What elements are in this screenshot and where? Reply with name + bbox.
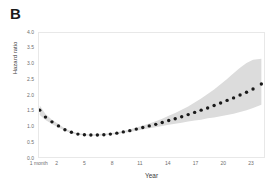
data-point xyxy=(186,113,189,116)
y-axis-tick-label: 2.0 xyxy=(0,93,34,98)
data-point xyxy=(109,132,112,135)
data-point xyxy=(232,96,235,99)
y-axis-tick-label: 3.5 xyxy=(0,45,34,50)
data-point xyxy=(50,120,53,123)
data-point xyxy=(167,119,170,122)
data-point xyxy=(245,91,248,94)
y-axis-tick-label: 0.5 xyxy=(0,140,34,145)
figure-panel-b: B Hazard ratio 4.03.53.02.52.01.51.00.50… xyxy=(0,0,280,187)
data-point xyxy=(76,132,79,135)
y-axis-tick-label: 4.0 xyxy=(0,30,34,35)
data-point xyxy=(57,124,60,127)
plot-svg xyxy=(39,33,266,159)
data-point xyxy=(219,101,222,104)
data-point xyxy=(102,133,105,136)
data-point xyxy=(63,128,66,131)
data-point xyxy=(44,115,47,118)
data-point xyxy=(225,99,228,102)
data-point xyxy=(199,108,202,111)
data-point xyxy=(154,123,157,126)
data-point xyxy=(193,111,196,114)
data-point xyxy=(83,133,86,136)
data-point xyxy=(206,106,209,109)
data-point xyxy=(174,117,177,120)
y-axis-tick-label: 1.0 xyxy=(0,124,34,129)
x-axis-tick-label: 23 xyxy=(248,161,254,166)
data-point xyxy=(180,115,183,118)
data-point xyxy=(128,129,131,132)
data-point xyxy=(115,131,118,134)
x-axis-tick-label: 14 xyxy=(165,161,171,166)
data-point xyxy=(135,127,138,130)
data-point xyxy=(70,131,73,134)
confidence-band xyxy=(40,59,262,136)
data-point xyxy=(89,133,92,136)
plot-area xyxy=(38,32,265,158)
x-axis-tick-label: 17 xyxy=(193,161,199,166)
data-point xyxy=(251,87,254,90)
data-point xyxy=(161,121,164,124)
y-axis-tick-label: 3.0 xyxy=(0,61,34,66)
x-axis-tick-label: 20 xyxy=(221,161,227,166)
x-axis-tick-label: 2 xyxy=(55,161,58,166)
data-point xyxy=(212,104,215,107)
y-axis-title: Hazard ratio xyxy=(12,13,18,103)
data-point xyxy=(148,124,151,127)
data-point xyxy=(96,133,99,136)
x-axis-title: Year xyxy=(38,172,265,179)
x-axis-tick-label: 5 xyxy=(83,161,86,166)
x-axis-tick-label: 1 month xyxy=(30,161,48,166)
y-axis-tick-label: 1.5 xyxy=(0,108,34,113)
data-point xyxy=(260,82,263,85)
x-axis-tick-label: 11 xyxy=(137,161,142,166)
data-point xyxy=(122,130,125,133)
x-axis-tick-label: 8 xyxy=(111,161,114,166)
data-point xyxy=(238,93,241,96)
data-point xyxy=(141,126,144,129)
y-axis-tick-label: 2.5 xyxy=(0,77,34,82)
